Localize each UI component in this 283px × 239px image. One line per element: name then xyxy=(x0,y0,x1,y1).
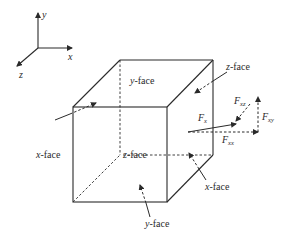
label-bottom-y-face: y-face xyxy=(145,219,169,229)
z-axis-arrow xyxy=(17,48,38,66)
label-force-xy: Fxy xyxy=(262,112,274,124)
x-axis-label: x xyxy=(68,52,72,62)
label-left-x-face: x-face xyxy=(36,150,60,160)
label-right-x-face: x-face xyxy=(205,182,229,192)
face-pointer-arrows xyxy=(55,72,227,217)
coordinate-axes xyxy=(17,13,72,66)
diagram-graphics xyxy=(0,0,283,239)
label-force-total: Fx xyxy=(198,113,207,125)
label-inner-z-face: z-face xyxy=(123,150,147,160)
label-top-y-face: y-face xyxy=(130,76,154,86)
force-total-arrow xyxy=(188,124,236,132)
label-force-xx: Fxx xyxy=(222,135,234,147)
label-back-z-face: z-face xyxy=(226,62,250,72)
y-axis-label: y xyxy=(42,10,46,20)
z-axis-label: z xyxy=(19,70,23,80)
stress-cube-diagram: y x z y-face z-face x-face z-face x-face… xyxy=(0,0,283,239)
label-force-xz: Fxz xyxy=(234,96,246,108)
